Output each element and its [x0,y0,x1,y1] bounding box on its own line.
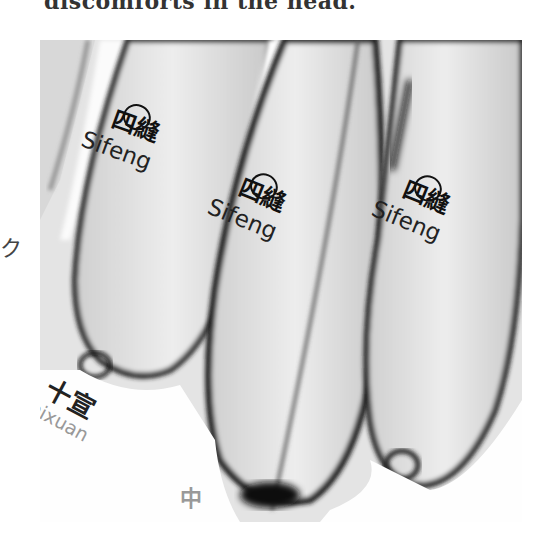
bottom-text-fragment: 中 [180,480,202,512]
caption-text: discomforts in the head. [44,0,357,14]
fingers-illustration [40,40,522,522]
left-text-fragment: ク [0,230,22,262]
finger-photo: 四縫 Sifeng 四縫 Sifeng 四縫 Sifeng 十宣 Shixuan… [40,40,522,522]
